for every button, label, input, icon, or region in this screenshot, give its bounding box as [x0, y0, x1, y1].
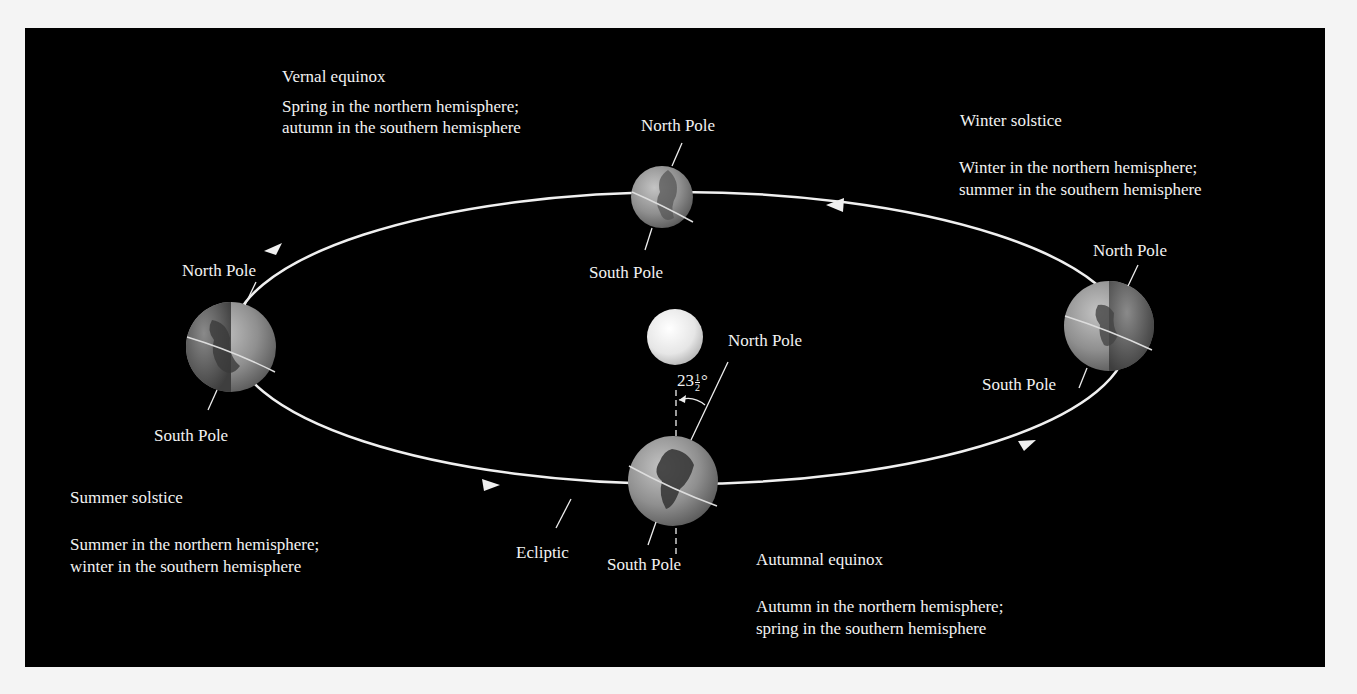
south-pole-label-summer: South Pole	[154, 425, 228, 447]
ecliptic-label: Ecliptic	[516, 542, 569, 564]
south-pole-label-vernal: South Pole	[589, 262, 663, 284]
orbit-diagram	[0, 0, 1357, 694]
tilt-degree: °	[701, 371, 708, 390]
ecliptic-leader	[556, 499, 571, 528]
season-desc-autumnal-1: Autumn in the northern hemisphere;	[756, 596, 1003, 617]
season-desc-summer-1: Summer in the northern hemisphere;	[70, 534, 319, 555]
season-desc-winter-2: summer in the southern hemisphere	[959, 179, 1202, 200]
north-pole-label-winter: North Pole	[1093, 240, 1167, 262]
earth-winter	[1064, 265, 1154, 388]
season-title-summer: Summer solstice	[70, 487, 183, 509]
season-title-winter: Winter solstice	[960, 110, 1062, 132]
orbit-arrow-icon	[482, 479, 500, 491]
sun	[647, 309, 703, 365]
tilt-frac-den: 2	[695, 383, 700, 392]
earth-vernal	[631, 143, 693, 250]
season-desc-autumnal-2: spring in the southern hemisphere	[756, 618, 986, 639]
north-pole-label-vernal: North Pole	[641, 115, 715, 137]
orbit-arrow-icon	[1018, 440, 1036, 451]
season-title-autumnal: Autumnal equinox	[756, 549, 883, 571]
season-desc-vernal-1: Spring in the northern hemisphere;	[282, 96, 519, 117]
south-pole-label-winter: South Pole	[982, 374, 1056, 396]
season-title-vernal: Vernal equinox	[282, 66, 385, 88]
season-desc-summer-2: winter in the southern hemisphere	[70, 556, 301, 577]
season-desc-winter-1: Winter in the northern hemisphere;	[959, 157, 1197, 178]
south-pole-label-autumnal: South Pole	[607, 554, 681, 576]
north-pole-label-summer: North Pole	[182, 260, 256, 282]
tilt-whole: 23	[677, 371, 694, 390]
tilt-angle-label: 2312°	[677, 370, 708, 392]
north-pole-label-autumnal: North Pole	[728, 330, 802, 352]
orbit-arrow-icon	[264, 243, 282, 255]
season-desc-vernal-2: autumn in the southern hemisphere	[282, 117, 521, 138]
